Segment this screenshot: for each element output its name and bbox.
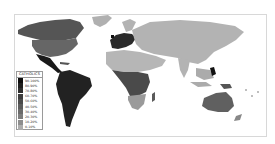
region-usa: [32, 38, 78, 57]
region-new-zealand: [234, 114, 242, 121]
map-legend: CATHOLICS 90-100% 80-90% 70-80% 60-70% 5…: [16, 71, 43, 130]
region-south-america: [56, 70, 92, 127]
region-southern-africa: [128, 94, 146, 110]
region-central-africa: [112, 70, 150, 96]
region-caribbean: [60, 62, 70, 65]
region-indonesia: [190, 82, 212, 87]
region-greenland: [92, 15, 112, 27]
region-australia: [202, 92, 234, 112]
region-pacific-island: [251, 95, 253, 97]
region-pacific-island: [257, 91, 259, 93]
region-papua-new-guinea: [220, 84, 232, 89]
region-ireland: [111, 35, 114, 38]
region-india: [178, 58, 190, 78]
region-canada: [18, 19, 84, 40]
region-pacific-island: [245, 89, 247, 91]
legend-item: 0-10%: [17, 125, 42, 130]
region-madagascar: [152, 92, 155, 102]
legend-swatch: [18, 125, 23, 130]
